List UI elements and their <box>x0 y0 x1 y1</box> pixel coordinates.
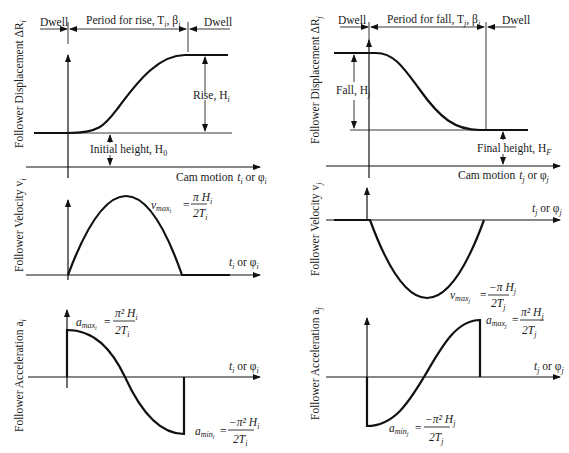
svg-text:amaxi: amaxi <box>76 316 97 331</box>
svg-text:=: = <box>104 316 111 328</box>
x-axis-label: ti or φi <box>229 256 259 271</box>
dwell-label-left: Dwell <box>40 16 68 28</box>
svg-text:2Ti: 2Ti <box>115 324 129 339</box>
rise-label: Rise, Hi <box>193 89 230 104</box>
final-height-label: Final height, HF <box>477 142 551 157</box>
dwell-label-right: Dwell <box>204 16 232 28</box>
cam-motion-label: Cam motionti or φi <box>176 171 267 186</box>
svg-text:=: = <box>183 199 190 211</box>
acceleration-y-label: Follower Acceleration aj <box>309 307 324 421</box>
left-acceleration-plot: ti or φi amaxi = π² Hi 2Ti amini = −π² H… <box>13 307 260 448</box>
dwell-label-left: Dwell <box>338 14 366 26</box>
dwell-label-right: Dwell <box>502 14 530 26</box>
svg-text:=: = <box>512 314 519 326</box>
svg-text:=: = <box>220 425 227 437</box>
amin-formula: amini = −π² Hi 2Ti <box>195 416 259 448</box>
period-rise-label: Period for rise, Ti, βi <box>86 14 180 29</box>
acceleration-fall-curve <box>367 320 480 426</box>
displacement-y-label: Follower Displacement ΔRj <box>309 15 324 144</box>
svg-text:vmaxj: vmaxj <box>450 289 470 304</box>
svg-text:2Tj: 2Tj <box>491 297 506 312</box>
svg-text:2Ti: 2Ti <box>193 207 207 222</box>
svg-text:π² Hi: π² Hi <box>115 307 138 322</box>
amin-formula: aminj = −π² Hj 2Tj <box>389 413 456 446</box>
x-axis-label: tj or φj <box>532 202 562 217</box>
fall-label: Fall, Hj <box>336 84 371 99</box>
amax-formula: amaxj = π² Hj 2Tj <box>486 306 544 339</box>
svg-text:aminj: aminj <box>389 422 409 437</box>
vmax-formula: vmaxi = π Hi 2Ti <box>151 191 212 222</box>
velocity-y-label: Follower Velocity vj <box>309 182 324 276</box>
velocity-fall-curve <box>334 220 484 298</box>
initial-height-label: Initial height, H0 <box>90 143 167 158</box>
svg-text:2Tj: 2Tj <box>522 324 537 339</box>
svg-text:π² Hj: π² Hj <box>521 306 544 321</box>
acceleration-rise-curve <box>67 330 184 434</box>
cam-motion-label: Cam motiontj or φj <box>458 169 550 184</box>
left-velocity-plot: ti or φi vmaxi = π Hi 2Ti Follower Veloc… <box>13 179 260 280</box>
right-displacement-plot: Dwell Period for fall, Tj, βj Dwell Fall… <box>309 13 560 184</box>
right-velocity-plot: tj or φj vmaxj = −π Hj 2Tj Follower Velo… <box>309 182 562 312</box>
svg-text:amini: amini <box>195 425 215 440</box>
svg-text:−π² Hi: −π² Hi <box>229 416 259 431</box>
x-axis-label: ti or φi <box>229 360 259 375</box>
period-fall-label: Period for fall, Tj, βj <box>387 13 481 28</box>
svg-text:amaxj: amaxj <box>486 314 507 329</box>
cam-motion-diagram: Dwell Period for rise, Ti, βi Dwell Rise… <box>0 0 569 453</box>
left-displacement-plot: Dwell Period for rise, Ti, βi Dwell Rise… <box>13 14 267 186</box>
svg-text:=: = <box>480 289 487 301</box>
svg-text:−π² Hj: −π² Hj <box>425 413 456 428</box>
displacement-y-label: Follower Displacement ΔRi <box>13 20 28 148</box>
x-axis-label: tj or φj <box>534 360 564 375</box>
velocity-y-label: Follower Velocity vi <box>13 179 28 272</box>
svg-text:=: = <box>415 422 422 434</box>
acceleration-y-label: Follower Acceleration ai <box>13 319 28 432</box>
vmax-formula: vmaxj = −π Hj 2Tj <box>450 281 517 312</box>
velocity-rise-curve <box>68 196 230 275</box>
svg-text:2Tj: 2Tj <box>429 431 444 446</box>
svg-text:2Ti: 2Ti <box>233 433 247 448</box>
right-acceleration-plot: tj or φj amaxj = π² Hj 2Tj aminj = −π² H… <box>309 306 564 446</box>
svg-text:−π Hj: −π Hj <box>489 281 517 296</box>
svg-text:vmaxi: vmaxi <box>151 199 171 214</box>
